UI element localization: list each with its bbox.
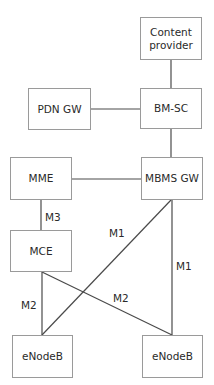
pdn-gw-label: PDN GW: [37, 103, 81, 116]
mbms-gw-label: MBMS GW: [145, 172, 199, 185]
node-pdn-gw: PDN GW: [28, 88, 91, 130]
enodeb-left-label: eNodeB: [22, 350, 63, 363]
edge-label-m1-vertical: M1: [176, 260, 192, 272]
content-provider-line1: Content: [150, 26, 192, 39]
node-mbms-gw: MBMS GW: [141, 157, 203, 200]
node-content-provider: Content provider: [140, 17, 202, 60]
bmsc-label: BM-SC: [154, 102, 188, 115]
node-mme: MME: [10, 157, 72, 200]
content-provider-line2: provider: [149, 39, 193, 52]
mce-label: MCE: [29, 245, 52, 258]
edge-label-m3: M3: [45, 211, 61, 223]
mme-label: MME: [29, 172, 54, 185]
edge-label-m2-diagonal: M2: [113, 292, 129, 304]
enodeb-right-label: eNodeB: [152, 350, 193, 363]
node-enodeb-right: eNodeB: [142, 335, 203, 378]
node-mce: MCE: [10, 230, 72, 272]
edge-label-m1-diagonal: M1: [109, 227, 125, 239]
edge-label-m2-vertical: M2: [21, 299, 37, 311]
edge-mce-enb-right: [42, 272, 172, 335]
node-enodeb-left: eNodeB: [12, 335, 73, 378]
node-bmsc: BM-SC: [140, 88, 202, 129]
